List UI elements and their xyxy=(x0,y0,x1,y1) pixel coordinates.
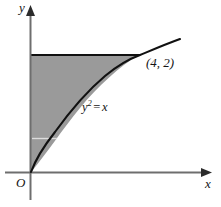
figure-container: y x O (4, 2) y2=x xyxy=(0,0,221,207)
curve-eq-operator: = xyxy=(92,100,102,114)
y-axis-arrowhead-icon xyxy=(26,5,35,16)
curve-eq-rhs: x xyxy=(102,100,108,114)
point-label-4-2: (4, 2) xyxy=(146,56,174,69)
origin-label: O xyxy=(16,176,25,189)
y-axis-label: y xyxy=(19,1,25,14)
curve-equation-label: y2=x xyxy=(82,99,107,114)
figure-canvas xyxy=(0,0,221,207)
x-axis-label: x xyxy=(205,177,211,190)
